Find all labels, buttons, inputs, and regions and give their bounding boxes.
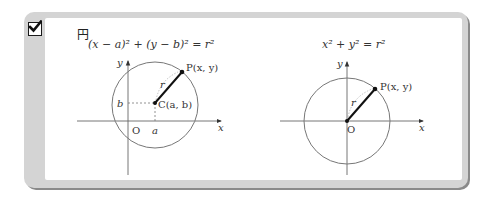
y-axis-label: y [116, 57, 123, 68]
y-axis-label: y [336, 58, 343, 69]
a-label: a [152, 125, 158, 136]
formula-origin: x² + y² = r² [322, 38, 385, 51]
x-axis-label: x [218, 122, 224, 133]
diagram-general-circle: (x − a)² + (y − b)² = r² y x O a b C(a, … [77, 38, 224, 175]
origin-label: O [347, 124, 355, 135]
center-label: C(a, b) [158, 99, 192, 110]
point-label: P(x, y) [186, 62, 218, 73]
formula-general: (x − a)² + (y − b)² = r² [88, 38, 215, 51]
circle-diagrams: (x − a)² + (y − b)² = r² y x O a b C(a, … [0, 0, 493, 206]
diagram-origin-circle: x² + y² = r² y x O P(x, y) r [280, 38, 425, 175]
point-p [373, 87, 378, 92]
origin-label: O [132, 125, 140, 136]
radius-label: r [160, 79, 166, 90]
origin-point [345, 119, 349, 123]
point-label: P(x, y) [380, 81, 412, 92]
point-p [180, 70, 185, 75]
x-axis-label: x [419, 122, 425, 133]
b-label: b [117, 98, 123, 109]
radius-label: r [351, 97, 357, 108]
center-point [153, 101, 157, 105]
